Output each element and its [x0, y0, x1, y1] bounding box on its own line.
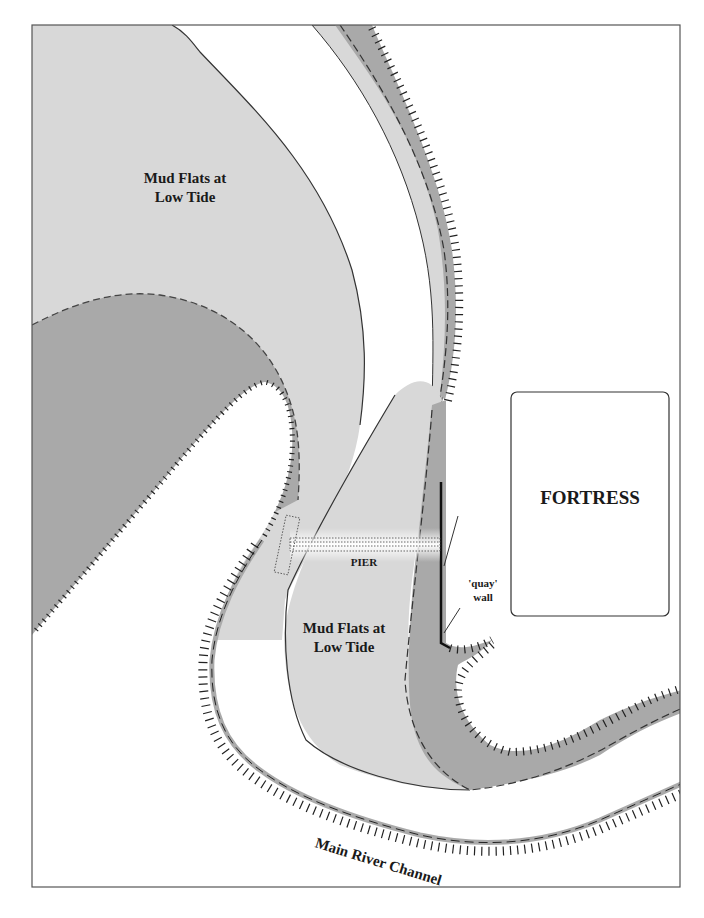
label-mud-flats-north-1: Mud Flats at [144, 170, 227, 186]
label-quay: 'quay' [468, 577, 497, 589]
label-mud-flats-south-2: Low Tide [314, 639, 375, 655]
label-pier: PIER [351, 556, 378, 568]
label-fortress: FORTRESS [540, 487, 640, 508]
label-mud-flats-south-1: Mud Flats at [303, 620, 386, 636]
label-mud-flats-north-2: Low Tide [155, 189, 216, 205]
label-wall: wall [473, 591, 493, 603]
estuary-map: Mud Flats at Low Tide Mud Flats at Low T… [0, 0, 704, 918]
